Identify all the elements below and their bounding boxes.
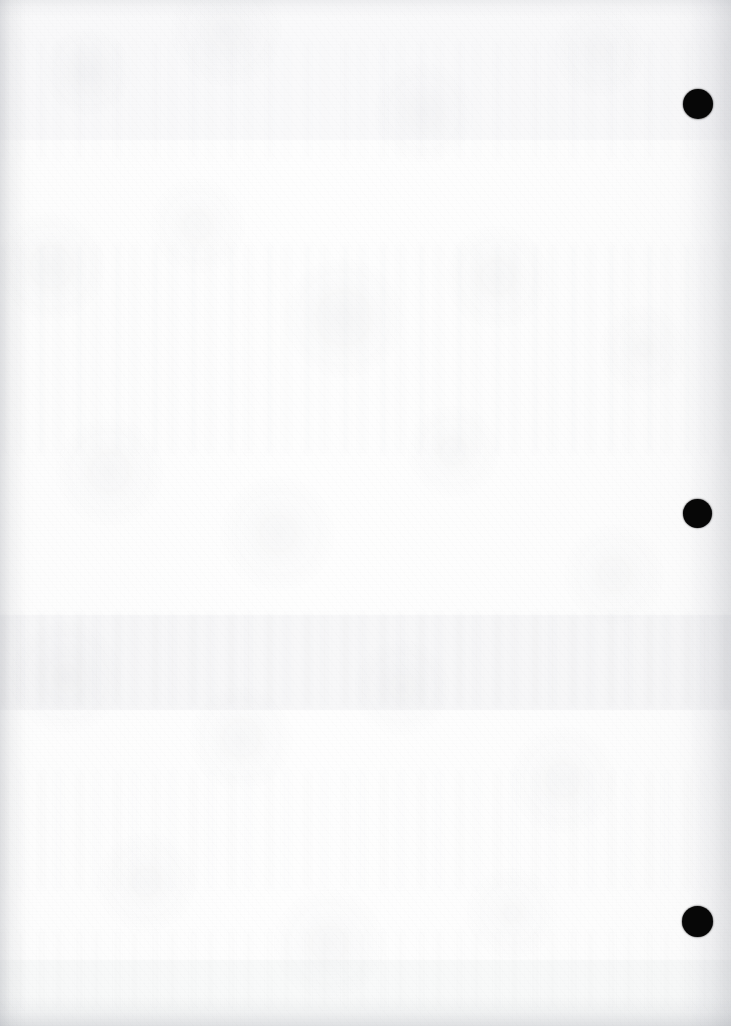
tone-band-lower xyxy=(0,960,731,1026)
paper-speckle-texture xyxy=(0,0,731,1026)
page-edge-bottom xyxy=(0,996,731,1026)
showthrough-band-bottom xyxy=(0,930,731,1010)
tone-band-upper xyxy=(0,0,731,140)
showthrough-band-upper xyxy=(0,244,731,454)
showthrough-band-top xyxy=(0,40,731,160)
showthrough-layer xyxy=(0,0,731,1026)
page-edge-shading xyxy=(0,0,731,1026)
register-mark-middle xyxy=(683,499,712,528)
page-edge-left xyxy=(0,0,26,1026)
showthrough-band-middle xyxy=(0,612,731,708)
register-mark-top xyxy=(683,89,713,119)
showthrough-band-lower xyxy=(0,770,731,890)
scanned-page xyxy=(0,0,731,1026)
paper-grain-texture xyxy=(0,0,731,1026)
tone-band-center xyxy=(0,615,731,710)
page-edge-top xyxy=(0,0,731,18)
register-mark-bottom xyxy=(682,906,713,937)
